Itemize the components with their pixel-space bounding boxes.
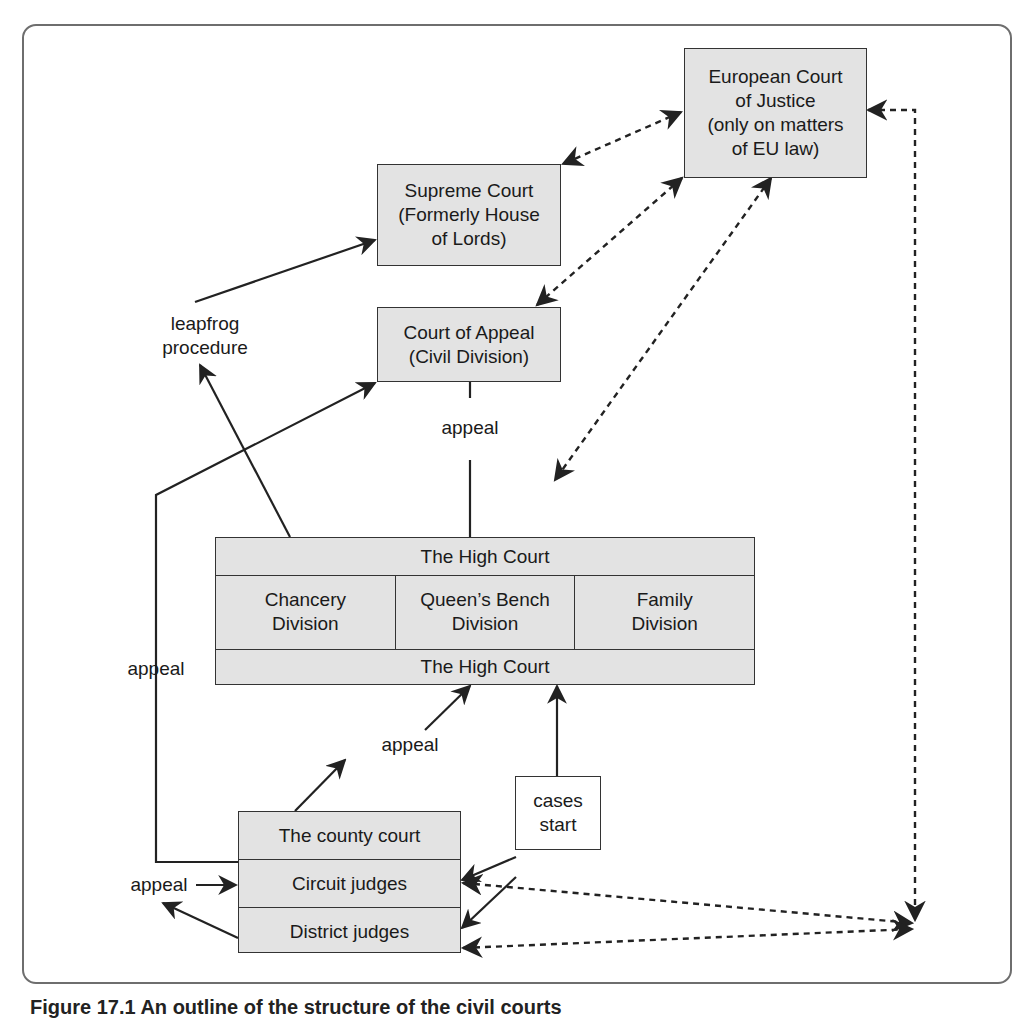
label-appeal-high-to-appeal: appeal xyxy=(432,416,508,440)
high-court-divisions: Chancery Division Queen’s Bench Division… xyxy=(216,575,754,650)
district-judges: District judges xyxy=(239,907,460,955)
high-court-title-bottom: The High Court xyxy=(216,649,754,684)
label-appeal-county-to-high: appeal xyxy=(372,733,448,757)
node-high-court: The High Court Chancery Division Queen’s… xyxy=(215,537,755,685)
node-court-of-appeal: Court of Appeal (Civil Division) xyxy=(377,307,561,382)
label-appeal-county-to-appeal: appeal xyxy=(116,657,196,681)
division-chancery: Chancery Division xyxy=(216,575,395,649)
node-supreme-court: Supreme Court (Formerly House of Lords) xyxy=(377,164,561,266)
high-court-title-top: The High Court xyxy=(216,538,754,576)
node-county-court: The county court Circuit judges District… xyxy=(238,811,461,953)
division-queens-bench: Queen’s Bench Division xyxy=(395,575,575,649)
figure-caption: Figure 17.1 An outline of the structure … xyxy=(30,996,562,1019)
division-family: Family Division xyxy=(574,575,754,649)
node-european-court-of-justice: European Court of Justice (only on matte… xyxy=(684,48,867,178)
county-court-title: The county court xyxy=(239,812,460,859)
node-cases-start: cases start xyxy=(515,776,601,850)
label-leapfrog-procedure: leapfrog procedure xyxy=(150,312,260,360)
label-appeal-district: appeal xyxy=(124,873,194,897)
circuit-judges: Circuit judges xyxy=(239,859,460,907)
